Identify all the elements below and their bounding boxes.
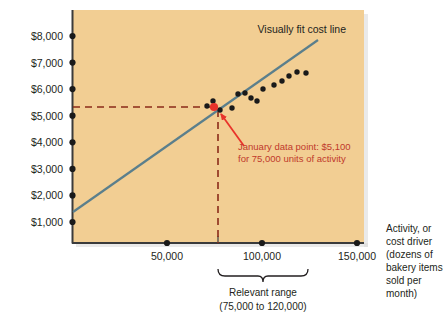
x-tick-label: 50,000 <box>151 250 183 262</box>
scatter-point <box>254 98 259 103</box>
plot-shadow-right <box>364 14 368 247</box>
y-tick-dot <box>69 219 75 225</box>
axis-title-line: (dozens of <box>386 249 433 260</box>
x-axis-title: Activity, or cost driver (dozens of bake… <box>386 223 443 299</box>
y-tick-label: $7,000 <box>31 57 63 69</box>
scatter-point <box>260 86 265 91</box>
scatter-point <box>294 69 299 74</box>
relevant-range-brace <box>218 269 308 282</box>
relevant-range-label-line2: (75,000 to 120,000) <box>219 301 306 312</box>
scatter-point <box>248 95 253 100</box>
cost-behavior-scatter-chart: $8,000 $7,000 $6,000 $5,000 $4,000 $3,00… <box>0 0 445 319</box>
axis-title-line: month) <box>386 288 417 299</box>
january-callout-line1: January data point: $5,100 <box>238 141 351 152</box>
scatter-point <box>229 105 234 110</box>
y-tick-label: $5,000 <box>31 110 63 122</box>
scatter-point <box>204 103 209 108</box>
y-tick-dot <box>69 139 75 145</box>
y-tick-dot <box>69 166 75 172</box>
relevant-range-label-line1: Relevant range <box>229 287 297 298</box>
scatter-point <box>303 70 308 75</box>
x-tick-label: 150,000 <box>338 250 376 262</box>
y-tick-dot <box>69 192 75 198</box>
scatter-point <box>210 98 215 103</box>
scatter-point <box>235 91 240 96</box>
y-tick-label: $4,000 <box>31 136 63 148</box>
chart-canvas: $8,000 $7,000 $6,000 $5,000 $4,000 $3,00… <box>0 0 445 319</box>
axis-title-line: bakery items <box>386 262 443 273</box>
y-tick-label: $2,000 <box>31 189 63 201</box>
x-axis-tick-labels: 50,000 100,000 150,000 <box>151 250 376 262</box>
y-tick-label: $3,000 <box>31 163 63 175</box>
axis-title-line: cost driver <box>386 236 433 247</box>
scatter-point <box>242 90 247 95</box>
scatter-point <box>271 82 276 87</box>
x-tick-dot <box>354 240 360 246</box>
y-tick-dot <box>69 86 75 92</box>
y-tick-label: $1,000 <box>31 216 63 228</box>
y-tick-dot <box>69 113 75 119</box>
y-tick-label: $6,000 <box>31 83 63 95</box>
cost-line-label: Visually fit cost line <box>257 23 346 35</box>
axis-title-line: Activity, or <box>386 223 432 234</box>
y-tick-dot <box>69 33 75 39</box>
axis-title-line: sold per <box>386 275 422 286</box>
scatter-point <box>279 78 284 83</box>
scatter-point <box>286 73 291 78</box>
x-tick-dot <box>259 240 265 246</box>
scatter-point <box>217 107 222 112</box>
january-data-point <box>210 103 218 111</box>
y-tick-label: $8,000 <box>31 30 63 42</box>
y-axis-tick-labels: $8,000 $7,000 $6,000 $5,000 $4,000 $3,00… <box>31 30 63 228</box>
x-tick-label: 100,000 <box>243 250 281 262</box>
january-callout-line2: for 75,000 units of activity <box>238 153 346 164</box>
y-tick-dot <box>69 60 75 66</box>
x-tick-dot <box>164 240 170 246</box>
